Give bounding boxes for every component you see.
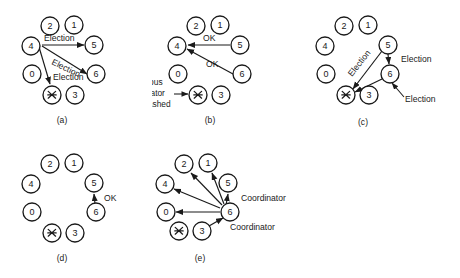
node-3-label: 3 (199, 226, 204, 236)
node-4: 4 (168, 37, 186, 55)
arrow-6-to-4 (174, 189, 220, 208)
panel-c: 2 1 5 6 3 (300, 4, 458, 116)
node-3: 3 (360, 86, 378, 104)
node-crashed (43, 224, 61, 242)
panel-e-canvas: 2 1 5 6 3 (140, 142, 330, 254)
node-5: 5 (85, 174, 103, 192)
panel-a: 2 1 5 6 3 (6, 4, 156, 116)
node-3-label: 3 (366, 90, 371, 100)
arrow-6-to-3 (209, 218, 223, 226)
node-0: 0 (23, 65, 41, 83)
panel-d-nodes: 2 1 5 6 3 (22, 154, 105, 242)
panel-b-caption: (b) (190, 115, 230, 125)
node-3-label: 3 (218, 90, 223, 100)
annotation-line-1: Previous (152, 77, 163, 87)
node-6-label: 6 (227, 207, 232, 217)
label-election-4-5: Election (44, 33, 75, 43)
node-5-label: 5 (91, 40, 96, 50)
arrow-6-to-2 (191, 173, 222, 205)
node-6: 6 (87, 203, 105, 221)
node-6: 6 (87, 65, 105, 83)
node-4-label: 4 (28, 41, 33, 51)
node-4: 4 (22, 175, 40, 193)
node-6-label: 6 (387, 69, 392, 79)
node-6: 6 (221, 203, 239, 221)
panel-c-canvas: 2 1 5 6 3 (300, 4, 458, 116)
node-0-label: 0 (175, 69, 180, 79)
panel-b-canvas: 2 1 5 6 3 (152, 4, 302, 116)
panel-e-caption: (e) (180, 253, 220, 263)
panel-b-message-labels: OK OK (203, 33, 219, 69)
node-4: 4 (156, 175, 174, 193)
node-0-label: 0 (29, 207, 34, 217)
panel-a-caption: (a) (42, 115, 82, 125)
node-1: 1 (199, 154, 217, 172)
panel-d-canvas: 2 1 5 6 3 (6, 142, 156, 254)
node-5-label: 5 (225, 178, 230, 188)
label-election-5-6: Election (401, 54, 432, 64)
node-6-label: 6 (93, 207, 98, 217)
node-5: 5 (85, 36, 103, 54)
node-5-label: 5 (91, 178, 96, 188)
node-1-label: 1 (217, 20, 222, 30)
node-1: 1 (65, 16, 83, 34)
node-5: 5 (219, 174, 237, 192)
node-crashed (170, 222, 188, 240)
label-ok-6-4: OK (206, 59, 219, 69)
node-2-label: 2 (47, 21, 52, 31)
node-0-label: 0 (163, 207, 168, 217)
node-4-label: 4 (322, 41, 327, 51)
label-coordinator-top: Coordinator (241, 193, 286, 203)
node-3-label: 3 (72, 90, 77, 100)
node-6: 6 (233, 65, 251, 83)
node-1-label: 1 (71, 158, 76, 168)
node-2-label: 2 (181, 159, 186, 169)
label-election-6-crashed: Election (405, 94, 436, 104)
node-3-label: 3 (72, 228, 77, 238)
node-2: 2 (335, 17, 353, 35)
panel-a-message-labels: Election Election Election (44, 33, 84, 82)
label-ok-6-5: OK (104, 193, 117, 203)
node-0: 0 (169, 65, 187, 83)
node-2-label: 2 (47, 159, 52, 169)
panel-e: 2 1 5 6 3 (140, 142, 330, 254)
bully-algorithm-figure: 2 1 5 6 3 (0, 0, 460, 278)
panel-d: 2 1 5 6 3 (6, 142, 156, 254)
node-0-label: 0 (323, 69, 328, 79)
node-0-label: 0 (29, 69, 34, 79)
node-2: 2 (41, 155, 59, 173)
node-0: 0 (23, 203, 41, 221)
node-6: 6 (381, 65, 399, 83)
node-6-label: 6 (239, 69, 244, 79)
node-1-label: 1 (71, 20, 76, 30)
node-1-label: 1 (205, 158, 210, 168)
node-4: 4 (316, 37, 334, 55)
node-3: 3 (193, 222, 211, 240)
node-2-label: 2 (341, 21, 346, 31)
panel-c-caption: (c) (343, 117, 383, 127)
panel-a-canvas: 2 1 5 6 3 (6, 4, 156, 116)
node-2: 2 (175, 155, 193, 173)
panel-d-caption: (d) (42, 253, 82, 263)
node-1: 1 (211, 16, 229, 34)
annotation-line-2: coordinator (152, 88, 165, 98)
node-5-label: 5 (237, 40, 242, 50)
panel-d-message-labels: OK (104, 193, 117, 203)
label-ok-5-4: OK (203, 33, 216, 43)
node-4-label: 4 (162, 179, 167, 189)
node-3: 3 (66, 86, 84, 104)
annotation-line-3: has crashed (152, 99, 171, 109)
node-3: 3 (212, 86, 230, 104)
node-2-label: 2 (193, 21, 198, 31)
node-6-label: 6 (93, 69, 98, 79)
node-1-label: 1 (365, 20, 370, 30)
node-1: 1 (65, 154, 83, 172)
node-5: 5 (379, 36, 397, 54)
arrow-4-to-crashed (39, 47, 50, 84)
label-election-4-crashed: Election (53, 72, 84, 82)
node-crashed (337, 86, 355, 104)
node-4-label: 4 (174, 41, 179, 51)
node-1: 1 (359, 16, 377, 34)
node-5: 5 (231, 36, 249, 54)
node-5-label: 5 (385, 40, 390, 50)
